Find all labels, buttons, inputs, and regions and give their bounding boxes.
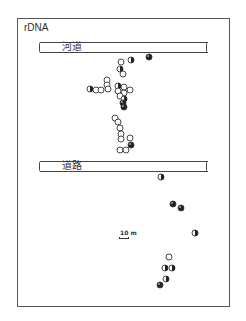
sample-point-open <box>98 87 104 93</box>
sample-point-half <box>163 276 169 282</box>
sample-point-filled <box>128 142 134 148</box>
sample-point-filled <box>121 104 127 110</box>
sample-point-open <box>127 135 133 141</box>
scale-label: 10 m <box>120 229 137 236</box>
sample-point-half <box>162 265 168 271</box>
sample-point-open <box>117 125 123 131</box>
sample-point-open <box>166 254 172 260</box>
sample-point-filled <box>178 205 184 211</box>
scale-bar <box>119 237 129 239</box>
sample-point-half <box>158 174 164 180</box>
sample-point-open <box>123 147 129 153</box>
sample-point-open <box>118 136 124 142</box>
sample-point-open <box>120 71 126 77</box>
sample-point-open <box>117 147 123 153</box>
sample-point-open <box>118 59 124 65</box>
sample-point-half <box>128 57 134 63</box>
sample-point-filled <box>157 282 163 288</box>
sample-point-open <box>121 84 127 90</box>
sample-point-half <box>87 86 93 92</box>
sample-point-half <box>169 265 175 271</box>
sample-point-open <box>127 87 133 93</box>
sample-points <box>0 0 246 321</box>
sample-point-filled <box>146 54 152 60</box>
sample-point-open <box>115 119 121 125</box>
sample-point-open <box>105 86 111 92</box>
sample-point-filled <box>170 201 176 207</box>
sample-point-half <box>192 230 198 236</box>
